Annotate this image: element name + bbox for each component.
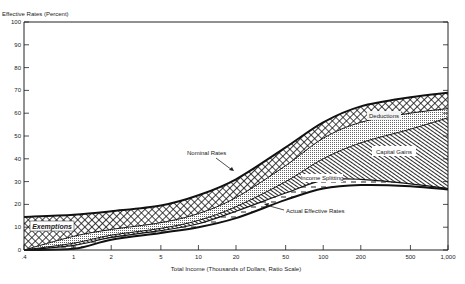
x-tick-label: .4 xyxy=(21,254,27,260)
income-splitting-label: Income Splitting xyxy=(301,175,344,181)
x-tick-label: 50 xyxy=(282,254,289,260)
y-tick-label: 40 xyxy=(14,156,21,162)
x-tick-label: 2 xyxy=(110,254,114,260)
x-axis-label: Total Income (Thousands of Dollars, Rati… xyxy=(171,266,301,272)
y-tick-label: 20 xyxy=(14,201,21,207)
x-tick-label: 1 xyxy=(72,254,76,260)
x-tick-label: 1,000 xyxy=(440,254,456,260)
y-tick-label: 10 xyxy=(14,224,21,230)
nominal-rates-arrow xyxy=(216,158,232,170)
actual-rates-arrow xyxy=(266,205,284,210)
y-axis-label: Effective Rates (Percent) xyxy=(2,11,69,17)
deductions-label: Deductions xyxy=(369,113,399,119)
x-tick-label: 5 xyxy=(159,254,163,260)
nominal-rates-arrowhead xyxy=(229,167,234,171)
y-tick-label: 90 xyxy=(14,42,21,48)
capital-gains-label: Capital Gains xyxy=(376,149,412,155)
exemptions-label: Exemptions xyxy=(32,223,72,231)
y-tick-label: 50 xyxy=(14,133,21,139)
y-tick-label: 80 xyxy=(14,65,21,71)
x-tick-label: 500 xyxy=(405,254,416,260)
x-tick-label: 20 xyxy=(233,254,240,260)
y-tick-label: 70 xyxy=(14,87,21,93)
effective-rates-chart: 0102030405060708090100 .4125102050100200… xyxy=(0,0,465,284)
x-tick-label: 10 xyxy=(195,254,202,260)
y-tick-label: 100 xyxy=(11,19,22,25)
y-tick-label: 60 xyxy=(14,110,21,116)
y-tick-label: 0 xyxy=(18,247,22,253)
nominal-rates-label: Nominal Rates xyxy=(187,150,226,156)
x-tick-label: 200 xyxy=(356,254,367,260)
actual-effective-rates-label: Actual Effective Rates xyxy=(286,208,345,214)
x-tick-label: 100 xyxy=(318,254,329,260)
y-tick-label: 30 xyxy=(14,179,21,185)
